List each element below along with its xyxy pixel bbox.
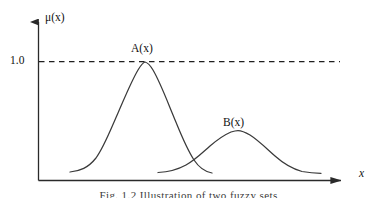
curve-b-label: B(x) <box>223 117 244 129</box>
x-axis-title: x <box>359 168 364 180</box>
y-axis-tick-label-1.0: 1.0 <box>10 55 24 67</box>
curve-a-label: A(x) <box>131 43 153 55</box>
plot-canvas <box>0 0 377 198</box>
curve-a-path <box>70 62 212 173</box>
y-axis-title: μ(x) <box>45 12 65 24</box>
figure-container: μ(x) x 1.0 A(x) B(x) Fig. 1.2 Illustrati… <box>0 0 377 198</box>
figure-caption: Fig. 1.2 Illustration of two fuzzy sets <box>0 189 377 198</box>
